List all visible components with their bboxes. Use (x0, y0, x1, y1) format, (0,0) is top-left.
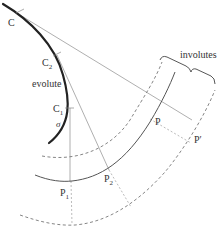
extension-P1 (71, 181, 72, 225)
label-C: C (8, 17, 15, 28)
label-C1: C1 (53, 103, 64, 117)
label-P1: P1 (60, 187, 70, 201)
involutes-brace (160, 56, 215, 84)
label-P: P (155, 116, 161, 127)
label-C2: C2 (42, 57, 53, 71)
evolute-involute-diagram: C C2 evolute C1 σ involutes P P′ P1 P2 (0, 0, 223, 233)
involute-dashed-outer (20, 90, 215, 225)
tangent-line-C2-P2 (57, 55, 109, 170)
extension-P2 (109, 170, 131, 207)
label-sigma: σ (56, 119, 61, 129)
tick-C (16, 9, 24, 13)
label-involutes: involutes (180, 49, 217, 60)
label-evolute: evolute (32, 78, 62, 89)
label-P-prime: P′ (194, 134, 202, 145)
